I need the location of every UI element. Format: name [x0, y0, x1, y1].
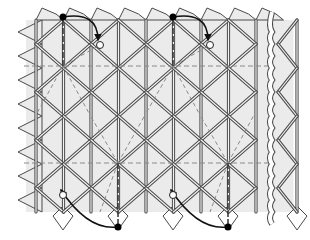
top-flap: [146, 8, 174, 20]
white-dot: [97, 42, 104, 49]
black-dot: [115, 224, 122, 231]
tessellation-diagram: [0, 0, 310, 240]
white-dot: [60, 192, 67, 199]
paper-rect: [26, 20, 294, 212]
break-line-gap: [270, 12, 272, 224]
top-flap: [91, 8, 119, 20]
black-dot: [60, 14, 67, 21]
white-dot: [170, 192, 177, 199]
top-flap: [229, 8, 257, 20]
black-dot: [170, 14, 177, 21]
top-flap: [201, 8, 229, 20]
break-line: [270, 12, 272, 224]
black-dot: [225, 224, 232, 231]
top-flap: [36, 8, 64, 20]
top-flap: [119, 8, 147, 20]
paper-fill: [26, 20, 294, 212]
white-dot: [207, 42, 214, 49]
